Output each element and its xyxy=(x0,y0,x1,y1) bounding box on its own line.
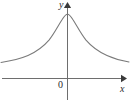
y-axis-arrow-icon xyxy=(64,2,71,8)
bell-curve-path xyxy=(1,14,129,62)
bell-curve-figure: y x 0 xyxy=(0,0,131,101)
y-axis-label: y xyxy=(59,0,63,10)
plot-area xyxy=(0,0,131,101)
origin-label: 0 xyxy=(58,80,63,90)
x-axis-label: x xyxy=(120,84,124,94)
x-axis-arrow-icon xyxy=(121,75,127,82)
